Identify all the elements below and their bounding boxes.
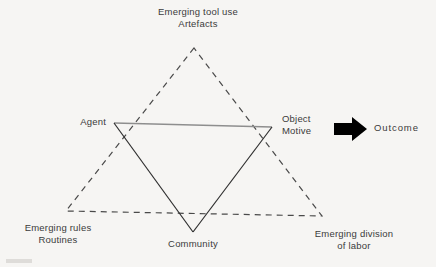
node-label-rules-routines: Emerging rules Routines [4,222,112,246]
right-arrow-icon [334,117,367,141]
agent-to-community-edge [114,123,193,232]
node-label-agent: Agent [50,116,106,128]
node-label-tools-artefacts: Emerging tool use Artefacts [118,6,278,30]
node-label-outcome: Outcome [374,122,436,134]
figure-canvas: Emerging tool use Artefacts Agent Object… [0,0,436,267]
node-label-division-of-labor: Emerging division of labor [288,228,420,252]
node-label-community: Community [150,238,236,250]
scan-artifact [6,259,32,263]
agent-to-object-edge [114,123,272,127]
object-to-community-edge [193,127,272,232]
node-label-object-motive: Object Motive [282,113,334,137]
